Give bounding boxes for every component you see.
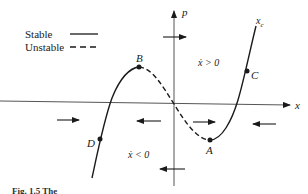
point-B-marker	[137, 65, 142, 70]
p-axis-label: p	[181, 6, 188, 18]
region-label-negative: ẋ < 0	[127, 149, 149, 160]
point-D-marker	[98, 137, 103, 142]
point-D-label: D	[86, 137, 95, 149]
region-label-positive: ẋ > 0	[197, 57, 219, 68]
legend: Stable Unstable	[25, 28, 99, 53]
figure-caption: Fig. 1.5 The	[12, 186, 57, 194]
point-A-marker	[208, 138, 213, 143]
point-C-label: C	[251, 69, 259, 81]
x-axis	[0, 101, 290, 105]
point-A: A	[205, 138, 213, 157]
bifurcation-diagram: Stable Unstable x p xc B A C D ẋ > 0 ẋ <…	[0, 0, 308, 194]
stable-branch-left	[92, 67, 139, 178]
point-B-label: B	[136, 52, 143, 64]
x-axis-label: x	[294, 99, 300, 111]
point-C-marker	[245, 69, 250, 74]
point-A-label: A	[205, 144, 213, 156]
point-C: C	[245, 69, 260, 82]
legend-stable-label: Stable	[25, 28, 53, 40]
legend-unstable-label: Unstable	[25, 41, 64, 53]
stable-branch-right	[210, 26, 256, 140]
